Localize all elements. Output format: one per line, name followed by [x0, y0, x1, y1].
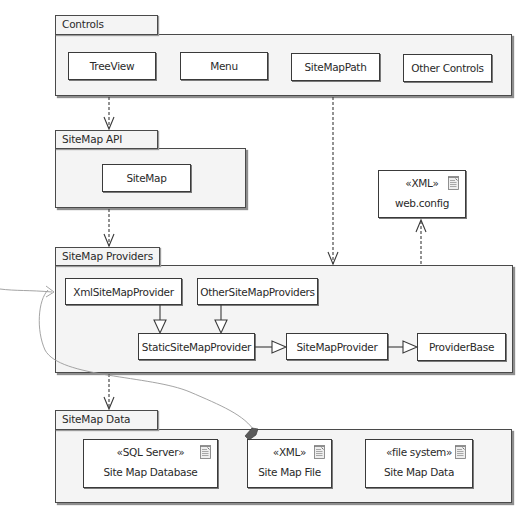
sitemap-data-package-label: SiteMap Data — [62, 413, 130, 425]
sitemap-provider-box[interactable]: SiteMapProvider — [286, 333, 388, 360]
provider-base-label: ProviderBase — [429, 341, 494, 353]
treeview-box[interactable]: TreeView — [68, 52, 156, 80]
other-controls-box[interactable]: Other Controls — [403, 54, 492, 82]
sitemappath-label: SiteMapPath — [304, 61, 366, 73]
site-map-file-label: Site Map File — [248, 466, 331, 478]
site-map-data-label: Site Map Data — [366, 466, 472, 478]
provider-base-box[interactable]: ProviderBase — [417, 333, 506, 361]
document-icon — [448, 176, 459, 190]
sitemap-api-package-label: SiteMap API — [62, 133, 122, 145]
other-sitemap-providers-label: OtherSiteMapProviders — [200, 286, 315, 298]
sitemap-data-package-tab: SiteMap Data — [55, 410, 158, 430]
static-sitemap-provider-box[interactable]: StaticSiteMapProvider — [138, 333, 255, 360]
controls-package-label: Controls — [62, 18, 104, 30]
xml-sitemap-provider-label: XmlSiteMapProvider — [73, 286, 174, 298]
sitemap-box[interactable]: SiteMap — [102, 164, 191, 192]
sitemap-api-package-tab: SiteMap API — [55, 130, 158, 149]
xml-sitemap-provider-box[interactable]: XmlSiteMapProvider — [65, 278, 182, 305]
site-map-data-artifact[interactable]: «file system» Site Map Data — [365, 439, 473, 488]
site-map-database-label: Site Map Database — [84, 466, 217, 478]
dependency-arrow — [104, 97, 114, 129]
site-map-file-artifact[interactable]: «XML» Site Map File — [247, 439, 332, 488]
document-icon — [314, 445, 325, 459]
site-map-database-artifact[interactable]: «SQL Server» Site Map Database — [83, 439, 218, 488]
sitemap-label: SiteMap — [126, 172, 166, 184]
treeview-label: TreeView — [90, 60, 134, 72]
document-icon — [455, 445, 466, 459]
sitemappath-box[interactable]: SiteMapPath — [291, 53, 380, 81]
menu-box[interactable]: Menu — [180, 52, 268, 80]
other-controls-label: Other Controls — [411, 62, 483, 74]
dependency-arrow — [104, 374, 114, 409]
site-map-database-stereotype: «SQL Server» — [84, 446, 217, 458]
dependency-arrow — [328, 97, 338, 264]
web-config-artifact[interactable]: «XML» web.config — [378, 170, 466, 218]
static-sitemap-provider-label: StaticSiteMapProvider — [142, 341, 251, 353]
dependency-arrow — [416, 220, 426, 264]
controls-package-tab: Controls — [55, 15, 158, 35]
sitemap-providers-package-label: SiteMap Providers — [62, 250, 153, 262]
dependency-arrow — [104, 209, 114, 246]
sitemap-providers-package-tab: SiteMap Providers — [55, 247, 160, 266]
other-sitemap-providers-box[interactable]: OtherSiteMapProviders — [197, 278, 318, 305]
sitemap-provider-label: SiteMapProvider — [296, 341, 377, 353]
web-config-label: web.config — [379, 197, 465, 209]
document-icon — [200, 445, 211, 459]
menu-label: Menu — [210, 60, 238, 72]
